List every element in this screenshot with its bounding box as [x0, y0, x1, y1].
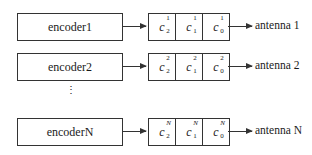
codeword-cells-2: c22 c21 c20: [148, 53, 230, 81]
cell-c0: c20: [203, 54, 229, 80]
antenna-label-n: antenna N: [255, 124, 302, 136]
arrow-encoder-to-cells-2: [122, 66, 146, 67]
arrow-cells-to-antenna-n: [228, 131, 252, 132]
cell-c2: cN2: [149, 119, 176, 145]
encoder-row-1: encoder1 c12 c11 c10 antenna 1: [0, 13, 312, 41]
vertical-ellipsis: ⋮: [66, 88, 76, 92]
cell-c2: c12: [149, 14, 176, 40]
cell-c1: c11: [176, 14, 203, 40]
cell-c2: c22: [149, 54, 176, 80]
antenna-label-1: antenna 1: [255, 19, 299, 31]
arrow-encoder-to-cells-n: [122, 131, 146, 132]
arrow-encoder-to-cells-1: [122, 26, 146, 27]
encoder-box-2: encoder2: [17, 53, 123, 81]
arrow-cells-to-antenna-2: [228, 66, 252, 67]
encoder-box-n: encoderN: [17, 118, 123, 146]
codeword-cells-1: c12 c11 c10: [148, 13, 230, 41]
codeword-cells-n: cN2 cN1 cN0: [148, 118, 230, 146]
cell-c0: c10: [203, 14, 229, 40]
cell-c0: cN0: [203, 119, 229, 145]
antenna-label-2: antenna 2: [255, 59, 299, 71]
encoder-box-1: encoder1: [17, 13, 123, 41]
arrow-cells-to-antenna-1: [228, 26, 252, 27]
encoder-row-2: encoder2 c22 c21 c20 antenna 2: [0, 53, 312, 81]
encoder-row-n: encoderN cN2 cN1 cN0 antenna N: [0, 118, 312, 146]
cell-c1: c21: [176, 54, 203, 80]
cell-c1: cN1: [176, 119, 203, 145]
